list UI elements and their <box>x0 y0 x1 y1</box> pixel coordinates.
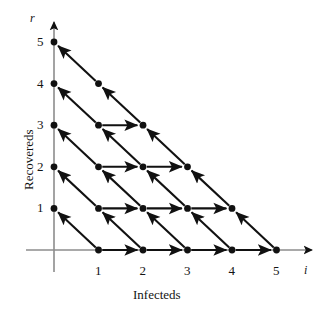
x-axis-title: Infecteds <box>133 288 181 301</box>
lattice-point <box>51 80 58 87</box>
recovery-arrows <box>58 46 274 248</box>
recovery-arrow <box>103 129 141 164</box>
recovery-arrow <box>103 171 141 206</box>
recovery-arrow <box>192 171 230 206</box>
recovery-arrow <box>58 129 96 164</box>
lattice-point <box>95 247 102 254</box>
y-tick-label: 1 <box>37 201 44 214</box>
y-axis-symbol: r <box>30 12 35 24</box>
recovery-arrow <box>103 212 141 247</box>
y-tick-label: 3 <box>37 118 44 131</box>
x-tick-label: 1 <box>95 264 102 277</box>
y-tick-label: 5 <box>37 35 44 48</box>
lattice-point <box>184 205 191 212</box>
sir-lattice-figure: r i Recovereds Infecteds 12345 12345 <box>0 0 333 312</box>
y-axis-title: Recovereds <box>22 129 35 190</box>
lattice-point <box>273 247 280 254</box>
lattice-point <box>51 122 58 129</box>
x-tick-label: 4 <box>229 264 236 277</box>
lattice-point <box>140 205 147 212</box>
recovery-arrow <box>58 212 96 247</box>
x-tick-label: 5 <box>273 264 280 277</box>
lattice-point <box>140 163 147 170</box>
recovery-arrow <box>103 87 141 122</box>
lattice-point <box>184 247 191 254</box>
lattice-point <box>229 247 236 254</box>
x-axis-symbol: i <box>304 264 307 276</box>
recovery-arrow <box>58 87 96 122</box>
lattice-point <box>95 205 102 212</box>
x-tick-label: 3 <box>184 264 191 277</box>
lattice-point <box>140 122 147 129</box>
lattice-point <box>51 205 58 212</box>
x-tick-label: 2 <box>140 264 147 277</box>
recovery-arrow <box>236 212 274 247</box>
lattice-point <box>95 163 102 170</box>
recovery-arrow <box>58 46 96 81</box>
lattice-point <box>95 80 102 87</box>
recovery-arrow <box>147 171 185 206</box>
recovery-arrow <box>192 212 230 247</box>
lattice-point <box>140 247 147 254</box>
lattice-point <box>184 163 191 170</box>
lattice-point <box>51 39 58 46</box>
lattice-point <box>51 163 58 170</box>
recovery-arrow <box>147 212 185 247</box>
plot-canvas <box>0 0 333 312</box>
y-tick-label: 2 <box>37 160 44 173</box>
lattice-point <box>229 205 236 212</box>
y-tick-label: 4 <box>37 77 44 90</box>
infection-arrows <box>102 125 271 250</box>
axis-lines <box>26 22 312 272</box>
recovery-arrow <box>147 129 185 164</box>
recovery-arrow <box>58 171 96 206</box>
lattice-point <box>95 122 102 129</box>
